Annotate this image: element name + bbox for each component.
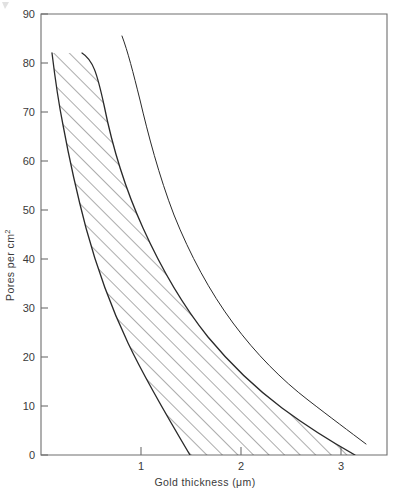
- y-tick-label: 40: [23, 253, 35, 265]
- y-tick-label: 70: [23, 106, 35, 118]
- y-axis-title-text: Pores per cm: [4, 234, 16, 301]
- y-axis-tick-labels: 90 80 70 60 50 40 30 20 10 0: [23, 8, 35, 461]
- y-tick-label: 10: [23, 400, 35, 412]
- y-tick-label: 60: [23, 155, 35, 167]
- scan-artifact: [2, 2, 9, 9]
- y-tick-label: 80: [23, 57, 35, 69]
- y-tick-label: 20: [23, 351, 35, 363]
- y-tick-label: 0: [29, 449, 35, 461]
- y-tick-label: 30: [23, 302, 35, 314]
- chart-figure: 90 80 70 60 50 40 30 20 10 0 1 2 3: [0, 0, 393, 491]
- x-axis-tick-labels: 1 2 3: [138, 460, 344, 472]
- y-axis-title-superscript: 2: [3, 229, 12, 234]
- x-tick-label: 2: [238, 460, 244, 472]
- x-tick-label: 3: [338, 460, 344, 472]
- y-tick-label: 90: [23, 8, 35, 20]
- pore-density-vs-gold-thickness-chart: 90 80 70 60 50 40 30 20 10 0 1 2 3: [0, 0, 393, 491]
- y-axis-ticks: [41, 14, 48, 455]
- hatched-band: [52, 53, 355, 455]
- y-tick-label: 50: [23, 204, 35, 216]
- x-axis-title: Gold thickness (μm): [154, 476, 255, 488]
- svg-text:Pores per cm2: Pores per cm2: [3, 229, 16, 301]
- y-axis-title: Pores per cm2: [3, 229, 16, 301]
- x-tick-label: 1: [138, 460, 144, 472]
- x-axis-title-text: Gold thickness (μm): [154, 476, 255, 488]
